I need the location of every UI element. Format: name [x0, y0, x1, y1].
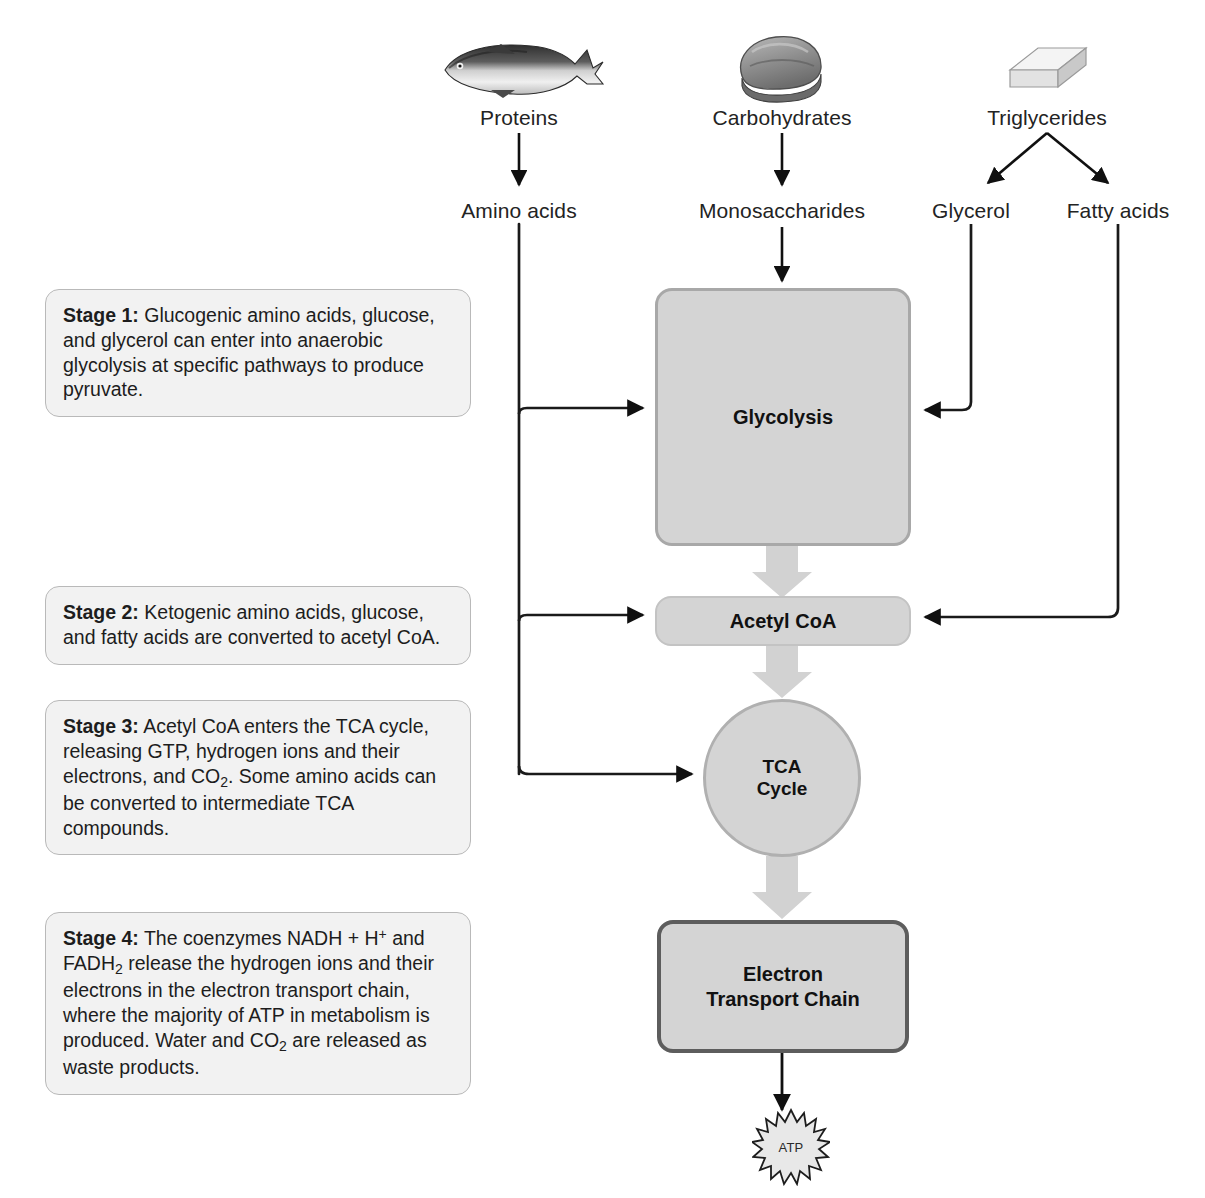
- stage-4-callout: Stage 4: The coenzymes NADH + H+ and FAD…: [45, 912, 471, 1095]
- label-carbohydrates: Carbohydrates: [712, 106, 851, 129]
- butter-icon: [1004, 40, 1092, 96]
- atp-starburst: ATP: [752, 1108, 830, 1186]
- stage-2-callout: Stage 2: Ketogenic amino acids, glucose,…: [45, 586, 471, 665]
- wire-amino-acids-to-acetyl-coa: [519, 615, 643, 621]
- node-etc-line-2: Transport Chain: [706, 988, 859, 1010]
- stage-4-heading: Stage 4:: [63, 927, 139, 949]
- block-arrow-acetyl-coa-to-tca-cycle: [752, 646, 812, 698]
- label-triglycerides: Triglycerides: [987, 106, 1107, 129]
- stage-2-heading: Stage 2:: [63, 601, 139, 623]
- node-glycolysis-label: Glycolysis: [733, 406, 833, 429]
- stage-4-sub-fadh2: 2: [115, 960, 123, 976]
- fish-icon: [435, 32, 607, 104]
- node-etc-line-1: Electron: [743, 963, 823, 985]
- label-glycerol: Glycerol: [932, 199, 1010, 222]
- label-monosaccharides: Monosaccharides: [699, 199, 865, 222]
- label-amino-acids: Amino acids: [461, 199, 576, 222]
- atp-label: ATP: [752, 1108, 830, 1186]
- node-tca-cycle: TCA Cycle: [703, 699, 861, 857]
- node-electron-transport-chain: Electron Transport Chain: [657, 920, 909, 1053]
- stage-3-sub-co2: 2: [220, 773, 228, 789]
- wire-amino-acids-to-glycolysis: [519, 408, 643, 414]
- stage-4-sub-co2: 2: [279, 1037, 287, 1053]
- stage-1-heading: Stage 1:: [63, 304, 139, 326]
- node-tca-cycle-label: TCA Cycle: [757, 756, 808, 801]
- wire-amino-acids-to-tca-cycle: [519, 766, 692, 774]
- stage-1-callout: Stage 1: Glucogenic amino acids, glucose…: [45, 289, 471, 417]
- node-acetyl-coa-label: Acetyl CoA: [730, 610, 837, 633]
- wire-triglycerides-to-fatty-acids: [1047, 133, 1108, 183]
- wire-glycerol-to-glycolysis: [925, 224, 971, 410]
- stage-3-heading: Stage 3:: [63, 715, 139, 737]
- node-tca-line-1: TCA: [762, 756, 801, 777]
- stage-4-body-part1: The coenzymes NADH + H: [139, 927, 379, 949]
- block-arrow-tca-cycle-to-etc: [752, 856, 812, 919]
- node-glycolysis: Glycolysis: [655, 288, 911, 546]
- stage-3-callout: Stage 3: Acetyl CoA enters the TCA cycle…: [45, 700, 471, 855]
- wire-fatty-acids-to-acetyl-coa: [925, 224, 1118, 617]
- node-acetyl-coa: Acetyl CoA: [655, 596, 911, 646]
- stage-4-sup-h-plus: +: [379, 926, 387, 942]
- label-fatty-acids: Fatty acids: [1067, 199, 1170, 222]
- bread-icon: [726, 28, 836, 106]
- node-tca-line-2: Cycle: [757, 778, 808, 799]
- block-arrow-glycolysis-to-acetyl-coa: [752, 546, 812, 598]
- label-proteins: Proteins: [480, 106, 558, 129]
- metabolism-diagram: Proteins Carbohydrates Triglycerides Ami…: [0, 0, 1205, 1198]
- wire-triglycerides-to-glycerol: [988, 133, 1047, 183]
- node-etc-label: Electron Transport Chain: [706, 962, 859, 1012]
